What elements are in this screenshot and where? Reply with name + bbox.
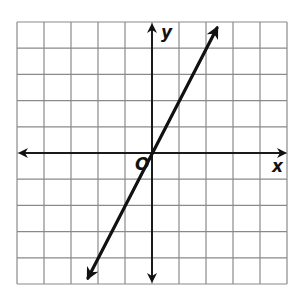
origin-label: O <box>135 154 149 174</box>
x-axis-label: x <box>271 156 284 176</box>
coordinate-plane: y x O <box>0 0 304 295</box>
y-axis-label: y <box>161 22 173 42</box>
